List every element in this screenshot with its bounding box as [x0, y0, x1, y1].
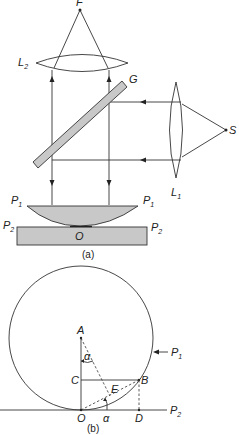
ray-f-right [80, 10, 108, 68]
source-label: S [229, 124, 237, 136]
circle-p1-label: P1 [171, 346, 182, 360]
point-c-label: C [71, 374, 79, 386]
arrow-up-right [107, 76, 112, 82]
caption-a: (a) [82, 249, 94, 260]
ray-f-left [54, 10, 80, 68]
focus-label: F [76, 0, 84, 8]
arrow-down-left [50, 180, 55, 186]
glass-plate-g [33, 81, 127, 168]
ray-s-top [182, 104, 226, 130]
point-e-label: E [111, 383, 119, 395]
contact-point-label: O [75, 230, 84, 242]
dashed-a-e [81, 338, 110, 396]
p2-left-label: P2 [3, 219, 14, 233]
point-d-label: D [135, 412, 143, 424]
plano-convex-lens-p1 [27, 206, 138, 226]
angle-bottom-label: α [103, 412, 110, 424]
angle-arc-bottom-arrow [103, 398, 107, 401]
figure-a: F L2 G L1 S P1 P1 [3, 0, 237, 260]
p1-left-label: P1 [11, 194, 22, 208]
arrow-left-top [140, 100, 146, 105]
lens-l2-label: L2 [18, 56, 28, 70]
lens-l1-label: L1 [171, 186, 181, 200]
point-o [80, 409, 82, 411]
figure-b: P2 A C B E α α O D P1 (b) [0, 266, 182, 434]
angle-top-label: α [84, 350, 91, 362]
p1-pointer-arrow [153, 350, 159, 355]
ray-s-bottom [182, 130, 226, 157]
lens-l2 [36, 55, 128, 72]
glass-plate-label: G [129, 73, 138, 85]
lens-l1 [170, 82, 183, 178]
arrow-left-bottom [140, 158, 146, 163]
caption-b: (b) [87, 423, 99, 434]
point-o-label: O [77, 412, 86, 424]
source-point [225, 129, 228, 132]
p1-right-label: P1 [143, 194, 154, 208]
point-b-label: B [141, 374, 148, 386]
p2-right-label: P2 [151, 221, 162, 235]
dashed-o-b [81, 380, 139, 410]
arrow-up-left [50, 76, 55, 82]
newtons-rings-diagram: F L2 G L1 S P1 P1 [0, 0, 239, 435]
point-d [138, 409, 140, 411]
arrow-down-right [107, 180, 112, 186]
plane-p2-label: P2 [170, 404, 181, 418]
point-a-label: A [76, 324, 84, 336]
